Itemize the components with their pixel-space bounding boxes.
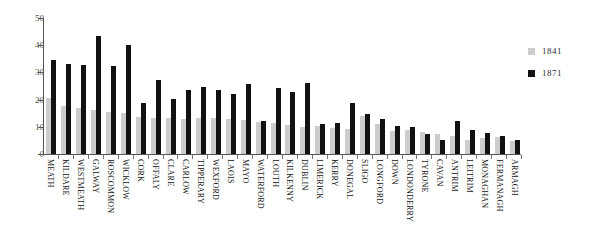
- bar-1871-cavan[interactable]: [440, 140, 445, 154]
- x-axis-label-down: DOWN: [390, 159, 398, 185]
- y-axis-tick-label: 0: [10, 150, 44, 159]
- legend-label: 1841: [542, 47, 562, 56]
- bar-1871-cork[interactable]: [141, 103, 146, 154]
- x-axis-label-carlow: CARLOW: [181, 159, 189, 195]
- x-axis-label-cell: FERMANAGH: [492, 159, 507, 249]
- bar-1871-meath[interactable]: [51, 60, 56, 154]
- chart-legend: 18411871: [528, 44, 598, 88]
- bar-group[interactable]: [223, 18, 238, 154]
- bar-group[interactable]: [358, 18, 373, 154]
- bar-1871-sligo[interactable]: [365, 114, 370, 154]
- x-axis-label-limerick: LIMERICK: [316, 159, 324, 199]
- bar-group[interactable]: [477, 18, 492, 154]
- bar-group[interactable]: [208, 18, 223, 154]
- bar-1871-limerick[interactable]: [320, 124, 325, 154]
- x-axis-label-cell: MONAGHAN: [477, 159, 492, 249]
- x-axis-label-westmeath: WESTMEATH: [77, 159, 85, 210]
- bar-group[interactable]: [328, 18, 343, 154]
- x-axis-label-kerry: KERRY: [330, 159, 338, 187]
- bar-1871-donegal[interactable]: [350, 103, 355, 154]
- bar-group[interactable]: [313, 18, 328, 154]
- bar-group[interactable]: [44, 18, 59, 154]
- bar-group[interactable]: [432, 18, 447, 154]
- bar-1871-tyrone[interactable]: [425, 134, 430, 154]
- bar-1871-galway[interactable]: [96, 36, 101, 154]
- bar-group[interactable]: [89, 18, 104, 154]
- bar-group[interactable]: [104, 18, 119, 154]
- bar-1871-londonderry[interactable]: [410, 127, 415, 154]
- legend-item-1841[interactable]: 1841: [528, 44, 598, 58]
- bar-1871-armagh[interactable]: [515, 140, 520, 154]
- bar-group[interactable]: [417, 18, 432, 154]
- bar-1871-offaly[interactable]: [156, 80, 161, 154]
- x-axis-label-cell: WEXFORD: [208, 159, 223, 249]
- bar-group[interactable]: [238, 18, 253, 154]
- x-axis-label-dublin: DUBLIN: [301, 159, 309, 190]
- x-axis-labels: MEATHKILDAREWESTMEATHGALWAYROSCOMMONWICK…: [44, 159, 522, 249]
- bar-group[interactable]: [298, 18, 313, 154]
- bar-1871-antrim[interactable]: [455, 121, 460, 154]
- bar-1871-longford[interactable]: [380, 119, 385, 154]
- x-axis-label-cell: GALWAY: [89, 159, 104, 249]
- bar-group[interactable]: [373, 18, 388, 154]
- bar-group[interactable]: [119, 18, 134, 154]
- bar-1871-fermanagh[interactable]: [500, 136, 505, 154]
- bar-group[interactable]: [74, 18, 89, 154]
- x-axis-label-tipperary: TIPPERARY: [196, 159, 204, 204]
- x-axis-label-cell: LEITRIM: [462, 159, 477, 249]
- bar-group[interactable]: [178, 18, 193, 154]
- bar-1871-wicklow[interactable]: [126, 45, 131, 154]
- bar-1871-kildare[interactable]: [66, 64, 71, 154]
- bar-1871-tipperary[interactable]: [201, 87, 206, 154]
- bar-1871-kerry[interactable]: [335, 123, 340, 154]
- bar-1871-roscommon[interactable]: [111, 66, 116, 154]
- bar-group[interactable]: [253, 18, 268, 154]
- x-axis-label-monaghan: MONAGHAN: [480, 159, 488, 208]
- bar-1871-laois[interactable]: [231, 94, 236, 154]
- bar-group[interactable]: [343, 18, 358, 154]
- x-axis-label-armagh: ARMAGH: [510, 159, 518, 196]
- bar-group[interactable]: [193, 18, 208, 154]
- bar-group[interactable]: [492, 18, 507, 154]
- legend-item-1871[interactable]: 1871: [528, 66, 598, 80]
- bar-1871-waterford[interactable]: [261, 121, 266, 154]
- x-axis-label-londonderry: LONDONDERRY: [405, 159, 413, 222]
- bar-1871-clare[interactable]: [171, 99, 176, 154]
- bar-1871-monaghan[interactable]: [485, 133, 490, 154]
- legend-swatch-icon: [528, 48, 535, 55]
- bar-group[interactable]: [59, 18, 74, 154]
- bar-group[interactable]: [403, 18, 418, 154]
- bar-1871-leitrim[interactable]: [470, 130, 475, 154]
- x-axis-label-cell: WATERFORD: [253, 159, 268, 249]
- bar-group[interactable]: [462, 18, 477, 154]
- x-axis-label-roscommon: ROSCOMMON: [106, 159, 114, 213]
- x-axis-label-cell: SLIGO: [358, 159, 373, 249]
- bar-1871-mayo[interactable]: [246, 84, 251, 154]
- x-axis-label-cell: TYRONE: [417, 159, 432, 249]
- x-axis-label-cell: DUBLIN: [298, 159, 313, 249]
- legend-label: 1871: [542, 69, 562, 78]
- bar-1871-carlow[interactable]: [186, 90, 191, 154]
- x-axis-label-mayo: MAYO: [241, 159, 249, 184]
- x-axis-label-meath: MEATH: [47, 159, 55, 188]
- bar-1871-westmeath[interactable]: [81, 65, 86, 154]
- bars-container: [44, 18, 522, 154]
- x-axis-label-fermanagh: FERMANAGH: [495, 159, 503, 211]
- bar-1871-kilkenny[interactable]: [290, 92, 295, 154]
- bar-1871-down[interactable]: [395, 126, 400, 154]
- bar-1871-dublin[interactable]: [305, 83, 310, 154]
- bar-group[interactable]: [149, 18, 164, 154]
- bar-group[interactable]: [164, 18, 179, 154]
- bar-group[interactable]: [507, 18, 522, 154]
- bar-group[interactable]: [447, 18, 462, 154]
- bar-1871-louth[interactable]: [276, 88, 281, 154]
- bar-group[interactable]: [268, 18, 283, 154]
- x-axis-label-cell: LAOIS: [223, 159, 238, 249]
- bar-group[interactable]: [283, 18, 298, 154]
- bar-group[interactable]: [388, 18, 403, 154]
- bar-1871-wexford[interactable]: [216, 90, 221, 154]
- x-axis-label-cell: LOUTH: [268, 159, 283, 249]
- bar-group[interactable]: [134, 18, 149, 154]
- x-axis-label-cell: CORK: [134, 159, 149, 249]
- x-axis-label-cell: OFFALY: [149, 159, 164, 249]
